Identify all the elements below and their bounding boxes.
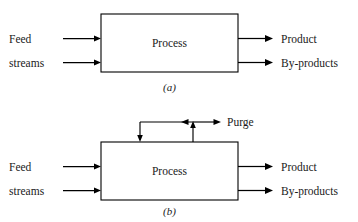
process-flow-figure: Process Feed streams Product bbox=[0, 0, 358, 222]
output-label-b-2: By-products bbox=[281, 185, 338, 198]
output-arrow-a-1 bbox=[238, 35, 273, 42]
recycle-return-arrowhead bbox=[137, 135, 143, 142]
purge-label: Purge bbox=[227, 116, 254, 129]
purge-arrowhead bbox=[214, 119, 222, 125]
panel-caption-a: (a) bbox=[163, 81, 176, 94]
input-arrow-a-2 bbox=[63, 59, 101, 65]
input-arrow-a-1 bbox=[63, 35, 101, 41]
input-arrow-b-1 bbox=[63, 163, 101, 169]
recycle-purge-loop bbox=[137, 119, 221, 142]
input-label-a-2: streams bbox=[9, 57, 45, 69]
recycle-left-arrowhead bbox=[181, 119, 189, 125]
panel-caption-b: (b) bbox=[163, 205, 176, 218]
input-label-a-1: Feed bbox=[9, 33, 32, 45]
output-arrow-a-2 bbox=[238, 59, 273, 66]
panel-a: Process Feed streams Product bbox=[9, 14, 338, 94]
input-arrow-b-2 bbox=[63, 187, 101, 193]
output-arrow-b-2 bbox=[238, 187, 273, 194]
input-label-b-2: streams bbox=[9, 185, 45, 197]
panel-b: Process Purge bbox=[9, 116, 338, 218]
process-box-label-b: Process bbox=[152, 165, 188, 177]
process-box-label-a: Process bbox=[152, 37, 188, 49]
output-arrow-b-1 bbox=[238, 163, 273, 170]
output-label-a-2: By-products bbox=[281, 57, 338, 70]
output-label-a-1: Product bbox=[281, 33, 318, 45]
output-label-b-1: Product bbox=[281, 161, 318, 173]
figure-canvas: Process Feed streams Product bbox=[0, 0, 358, 222]
input-label-b-1: Feed bbox=[9, 161, 32, 173]
